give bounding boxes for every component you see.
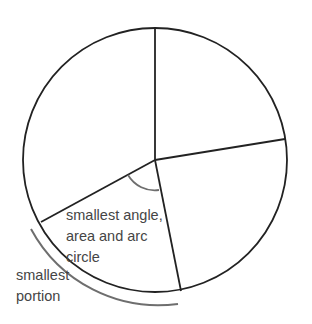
angle-label-line2: area and arc [66,226,163,247]
portion-label-line2: portion [16,286,69,307]
smallest-angle-label: smallest angle, area and arc circle [66,205,163,268]
radius-right [155,139,285,160]
angle-label-line1: smallest angle, [66,205,163,226]
smallest-portion-label: smallest portion [16,265,69,307]
angle-marker-arc [128,175,159,190]
portion-label-line1: smallest [16,265,69,286]
circle-sector-diagram: smallest angle, area and arc circle smal… [0,0,312,324]
angle-label-line3: circle [66,247,163,268]
